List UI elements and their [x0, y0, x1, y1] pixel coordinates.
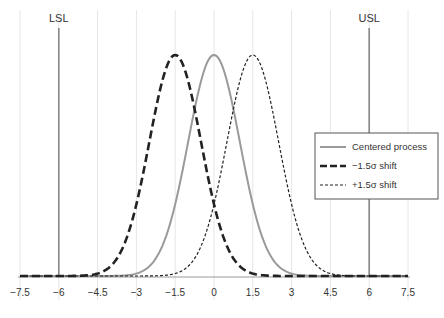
chart: LSLUSL −7.5−6−4.5−3−1.501.534.567.5 Cent… — [0, 0, 444, 318]
x-tick-label: 4.5 — [323, 287, 337, 298]
x-tick-label: 1.5 — [246, 287, 260, 298]
x-tick-label: −3 — [131, 287, 143, 298]
x-tick-label: 3 — [289, 287, 295, 298]
x-tick-label: 6 — [366, 287, 372, 298]
x-tick-label: 7.5 — [401, 287, 415, 298]
x-tick-label: 0 — [211, 287, 217, 298]
x-tick-label: −7.5 — [10, 287, 30, 298]
x-tick-label: −1.5 — [165, 287, 185, 298]
legend-label-plus-shift: +1.5σ shift — [352, 179, 397, 190]
spec-limit-label-lsl: LSL — [49, 12, 69, 24]
x-ticks: −7.5−6−4.5−3−1.501.534.567.5 — [10, 287, 415, 298]
legend-label-minus-shift: −1.5σ shift — [352, 160, 397, 171]
spec-limit-label-usl: USL — [358, 12, 379, 24]
x-tick-label: −6 — [53, 287, 65, 298]
legend: Centered process −1.5σ shift +1.5σ shift — [315, 133, 438, 199]
x-tick-label: −4.5 — [88, 287, 108, 298]
legend-label-centered: Centered process — [352, 141, 427, 152]
